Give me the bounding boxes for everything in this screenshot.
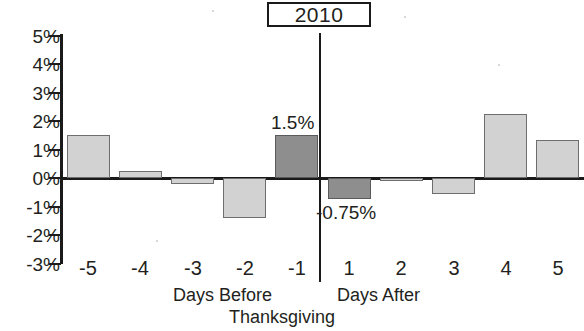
scan-speck bbox=[212, 10, 214, 12]
x-tick-label: 4 bbox=[486, 258, 526, 278]
y-tick-label: 2% bbox=[14, 112, 60, 131]
bar-4 bbox=[484, 114, 527, 178]
chart-root: 2010 5%4%3%2%1%0%-1%-2%-3% 1.5% -0.75% -… bbox=[0, 0, 584, 331]
scan-speck bbox=[404, 16, 406, 18]
plot-area: 5%4%3%2%1%0%-1%-2%-3% 1.5% -0.75% -5-4-3… bbox=[0, 0, 584, 331]
x-tick-label: -5 bbox=[68, 258, 108, 278]
bar-5 bbox=[536, 140, 579, 178]
y-axis-labels: 5%4%3%2%1%0%-1%-2%-3% bbox=[0, 0, 60, 331]
scan-speck bbox=[156, 240, 158, 242]
y-tick-label: 5% bbox=[14, 27, 60, 46]
thanksgiving-divider bbox=[319, 33, 321, 282]
bar-3 bbox=[432, 178, 475, 194]
y-tick-label: -1% bbox=[14, 198, 60, 217]
y-tick-label: 4% bbox=[14, 55, 60, 74]
callout-negative: -0.75% bbox=[316, 203, 376, 222]
x-tick-label: 2 bbox=[381, 258, 421, 278]
x-tick-label: 5 bbox=[538, 258, 578, 278]
x-tick-label: 1 bbox=[329, 258, 369, 278]
bar-neg4 bbox=[119, 171, 162, 178]
y-tick-label: 0% bbox=[14, 169, 60, 188]
callout-positive: 1.5% bbox=[271, 113, 314, 132]
caption-thanksgiving: Thanksgiving bbox=[229, 308, 335, 326]
bar-1 bbox=[328, 178, 371, 199]
y-tick-label: -2% bbox=[14, 226, 60, 245]
caption-days-after: Days After bbox=[337, 286, 420, 304]
y-tick-label: 3% bbox=[14, 84, 60, 103]
bar-neg1 bbox=[275, 135, 318, 178]
bar-2 bbox=[380, 178, 423, 181]
y-tick-label: 1% bbox=[14, 141, 60, 160]
x-tick-label: 3 bbox=[434, 258, 474, 278]
x-tick-label: -2 bbox=[225, 258, 265, 278]
y-tick-label: -3% bbox=[14, 255, 60, 274]
bar-neg2 bbox=[223, 178, 266, 218]
x-tick-label: -3 bbox=[173, 258, 213, 278]
x-tick-label: -4 bbox=[120, 258, 160, 278]
bar-neg3 bbox=[171, 178, 214, 184]
caption-days-before: Days Before bbox=[173, 286, 272, 304]
x-tick-label: -1 bbox=[277, 258, 317, 278]
bar-neg5 bbox=[67, 135, 110, 178]
scan-speck bbox=[498, 64, 500, 66]
